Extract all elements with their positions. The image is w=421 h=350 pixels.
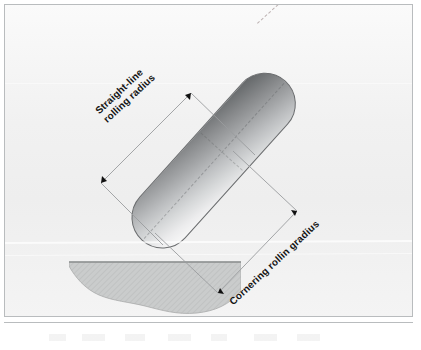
caption-ghost-text — [36, 334, 366, 341]
page-bottom-rule — [4, 322, 413, 323]
figure-page: Straight-line rolling radius Cornering r… — [0, 0, 421, 350]
dimension-overlay — [5, 5, 412, 316]
scanned-sheet: Straight-line rolling radius Cornering r… — [4, 4, 413, 317]
